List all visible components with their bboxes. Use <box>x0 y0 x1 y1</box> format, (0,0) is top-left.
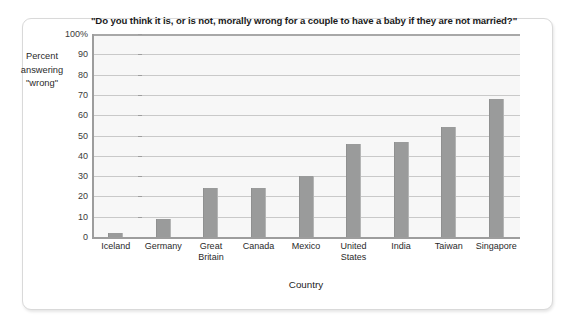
y-axis-tick-label: 20 <box>54 191 88 201</box>
y-axis-tick-label: 60 <box>54 110 88 120</box>
y-axis-tick-mark <box>138 237 142 238</box>
x-axis-tick-label: GreatBritain <box>187 241 235 263</box>
bar-iceland <box>108 233 123 237</box>
x-axis-tick-label: Mexico <box>282 241 330 252</box>
bar-taiwan <box>441 127 456 237</box>
y-axis-tick-label: 80 <box>54 70 88 80</box>
x-axis-tick-label: Canada <box>235 241 283 252</box>
bar-germany <box>156 219 171 237</box>
y-axis-tick-label: 10 <box>54 212 88 222</box>
x-axis-tick-label: Iceland <box>92 241 140 252</box>
bar-canada <box>251 188 266 237</box>
y-axis-tick-label: 40 <box>54 151 88 161</box>
bars-layer <box>92 34 520 237</box>
bar-india <box>394 142 409 237</box>
y-axis-tick-label: 90 <box>54 49 88 59</box>
y-axis-tick-label: 70 <box>54 90 88 100</box>
y-axis-tick-labels: 0102030405060708090100% <box>50 34 88 237</box>
x-axis-tick-label: India <box>377 241 425 252</box>
y-axis-tick-label: 30 <box>54 171 88 181</box>
chart-title: "Do you think it is, or is not, morally … <box>80 15 528 27</box>
x-axis-tick-labels: IcelandGermanyGreatBritainCanadaMexicoUn… <box>92 241 520 271</box>
x-axis-tick-label: Taiwan <box>425 241 473 252</box>
y-axis-tick-label: 50 <box>54 131 88 141</box>
y-axis-tick-label: 100% <box>54 29 88 39</box>
x-axis-line <box>92 237 520 239</box>
bar-singapore <box>489 99 504 237</box>
x-axis-title: Country <box>92 279 520 290</box>
bar-united-states <box>346 144 361 237</box>
bar-great-britain <box>203 188 218 237</box>
x-axis-tick-label: UnitedStates <box>330 241 378 263</box>
y-axis-tick-label: 0 <box>54 232 88 242</box>
x-axis-tick-label: Germany <box>140 241 188 252</box>
bar-mexico <box>299 176 314 237</box>
x-axis-tick-label: Singapore <box>472 241 520 252</box>
